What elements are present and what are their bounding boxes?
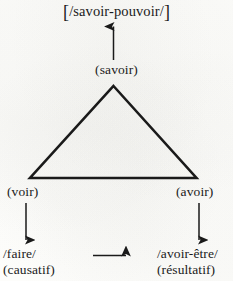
left-output-term: /faire/ <box>3 247 36 261</box>
diagram-canvas: [/savoir-pouvoir/] (savoir) (voir) (avoi… <box>0 0 233 281</box>
top-term-text: /savoir-pouvoir/ <box>69 3 164 19</box>
triangle-shape <box>30 86 197 178</box>
diagram-vector-layer <box>0 0 233 281</box>
right-output-gloss: (résultatif) <box>157 263 215 277</box>
close-bracket-glyph: ] <box>164 2 170 22</box>
top-bracketed-term: [/savoir-pouvoir/] <box>0 4 233 19</box>
right-output-term: /avoir-être/ <box>157 247 218 261</box>
apex-term: (savoir) <box>0 63 233 77</box>
left-vertex-term: (voir) <box>7 185 38 199</box>
left-output-gloss: (causatif) <box>3 263 55 277</box>
right-vertex-term: (avoir) <box>176 185 213 199</box>
